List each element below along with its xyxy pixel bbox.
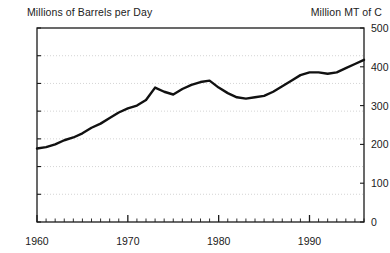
y-axis-left-labels: 02468101214 bbox=[0, 0, 33, 253]
x-axis-tick-label: 1960 bbox=[25, 235, 48, 247]
x-axis-tick-label: 1980 bbox=[207, 235, 230, 247]
y-axis-right-tick-label: 200 bbox=[371, 138, 389, 150]
plot-area bbox=[0, 0, 390, 253]
y-axis-right-tick-label: 500 bbox=[371, 22, 389, 34]
y-axis-right-tick-label: 0 bbox=[371, 216, 377, 228]
y-axis-right-tick-label: 100 bbox=[371, 177, 389, 189]
gridlines bbox=[38, 56, 363, 195]
x-axis-labels: 1960197019801990 bbox=[0, 228, 390, 253]
y-axis-right-tick-label: 400 bbox=[371, 61, 389, 73]
y-axis-right-labels: 0100200300400500 bbox=[368, 0, 390, 253]
x-axis-tick-label: 1970 bbox=[116, 235, 139, 247]
chart-container: Millions of Barrels per Day Million MT o… bbox=[0, 0, 390, 253]
axis-ticks bbox=[37, 28, 364, 222]
x-axis-tick-label: 1990 bbox=[298, 235, 321, 247]
data-line-series-0 bbox=[37, 60, 364, 149]
plot-frame bbox=[37, 28, 364, 222]
y-axis-right-tick-label: 300 bbox=[371, 100, 389, 112]
left-axis-title: Millions of Barrels per Day bbox=[27, 6, 152, 18]
